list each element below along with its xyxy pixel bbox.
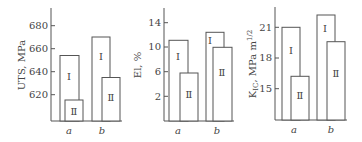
bar-label-II: Ⅱ — [186, 89, 193, 100]
category-label-a: a — [66, 125, 72, 136]
bar-label-II: Ⅱ — [108, 92, 115, 103]
y-tick-label: 680 — [29, 20, 48, 31]
y-tick-label: 14 — [148, 17, 161, 28]
bar-b-II — [213, 47, 232, 121]
y-tick-label: 6 — [155, 66, 161, 77]
category-label-a: a — [175, 125, 181, 136]
bar-label-I: I — [99, 51, 103, 62]
y-tick-label: 660 — [29, 43, 48, 54]
bar-b-II — [327, 42, 345, 120]
y-tick-label: 2 — [155, 91, 161, 102]
y-tick-label: 10 — [148, 41, 161, 52]
chart-fracture-toughness: KIC, MPa m1/2 21 18 15 I Ⅱ I Ⅱ a b — [246, 7, 347, 135]
chart-uts: UTS, MPa 680 660 640 620 I Ⅱ I Ⅱ a b — [16, 8, 122, 136]
bar-label-II: Ⅱ — [219, 67, 226, 78]
chart-elongation: El, % 14 10 6 2 I Ⅱ I Ⅱ a b — [132, 8, 234, 136]
bar-label-I: I — [323, 23, 327, 34]
y-tick-label: 620 — [29, 89, 48, 100]
y-axis-label: KIC, MPa m1/2 — [246, 30, 260, 98]
bar-label-I: I — [289, 45, 293, 56]
category-label-b: b — [328, 124, 334, 135]
y-axis-label: UTS, MPa — [16, 40, 27, 90]
y-tick-label: 640 — [29, 66, 48, 77]
bar-label-II: Ⅱ — [297, 90, 304, 101]
category-label-b: b — [214, 125, 220, 136]
category-label-b: b — [99, 125, 105, 136]
bar-label-I: I — [208, 35, 212, 46]
bar-chart-panels: UTS, MPa 680 660 640 620 I Ⅱ I Ⅱ a b El,… — [0, 0, 362, 142]
bar-label-II: Ⅱ — [71, 106, 78, 117]
y-axis-label: El, % — [132, 52, 143, 78]
bar-label-II: Ⅱ — [333, 68, 340, 79]
y-tick-label: 18 — [259, 52, 272, 63]
category-label-a: a — [291, 124, 297, 135]
y-tick-label: 21 — [259, 22, 272, 33]
bar-label-I: I — [67, 71, 71, 82]
bar-label-I: I — [176, 51, 180, 62]
y-tick-label: 15 — [259, 83, 272, 94]
